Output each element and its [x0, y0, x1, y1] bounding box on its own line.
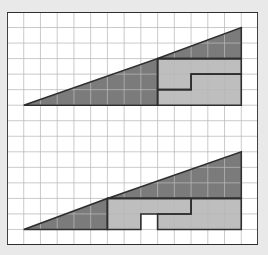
missing-square-hole	[141, 214, 158, 230]
puzzle-diagram	[7, 12, 258, 245]
grid-paper	[7, 12, 258, 245]
